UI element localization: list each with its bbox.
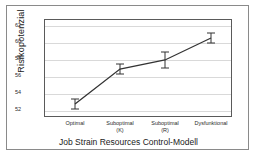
plot-frame [44,19,232,117]
y-tick-label: 62 [0,23,21,29]
x-tick-label-dysfunktional: Dysfunktional [180,120,242,127]
x-tick-line2: (R) [135,127,195,134]
y-tick-label: 60 [0,39,21,45]
chart-area: Risikopotenzial 62 60 58 56 54 52 [7,6,250,151]
series-plot [45,20,231,116]
error-bar [71,99,79,109]
series-line [75,38,211,104]
x-axis-title: Job Strain Resources Control-Modell [7,137,250,147]
y-tick-label: 58 [0,56,21,62]
y-tick-label: 52 [0,107,21,113]
x-tick-line1: Dysfunktional [180,120,242,127]
y-tick-label: 54 [0,90,21,96]
y-tick-label: 56 [0,73,21,79]
figure-outer-border: Risikopotenzial 62 60 58 56 54 52 [6,5,249,150]
error-bar [207,33,215,43]
